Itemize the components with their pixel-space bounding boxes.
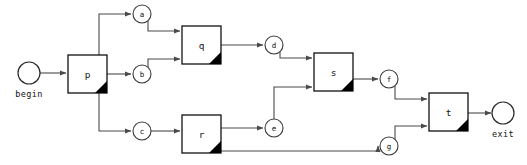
- node-c[interactable]: c: [133, 122, 151, 140]
- begin-circle[interactable]: [18, 62, 40, 84]
- node-q[interactable]: q: [182, 26, 221, 64]
- e-label: e: [272, 124, 277, 133]
- node-d[interactable]: d: [265, 36, 283, 54]
- node-a[interactable]: a: [133, 5, 151, 23]
- diagram-svg: begin p q r s t: [0, 0, 527, 165]
- node-p[interactable]: p: [68, 55, 107, 93]
- q-label: q: [199, 40, 205, 51]
- edge-g-to-t: [395, 126, 427, 139]
- f-label: f: [387, 75, 392, 84]
- node-exit[interactable]: exit: [492, 102, 514, 139]
- edge-p-to-a: [99, 14, 131, 55]
- edge-p-to-c: [99, 93, 131, 131]
- t-label: t: [446, 107, 452, 118]
- edge-r-to-g: [221, 146, 378, 151]
- node-r[interactable]: r: [182, 115, 221, 153]
- p-label: p: [85, 69, 91, 80]
- edge-b-to-q: [148, 59, 180, 67]
- edge-f-to-t: [395, 86, 427, 99]
- node-begin[interactable]: begin: [15, 62, 43, 99]
- node-s[interactable]: s: [314, 53, 353, 91]
- d-label: d: [272, 41, 277, 50]
- b-label: b: [140, 70, 145, 79]
- edge-e-to-s: [274, 87, 312, 119]
- edge-a-to-q: [148, 21, 180, 31]
- exit-label: exit: [492, 129, 514, 139]
- s-label: s: [331, 67, 337, 78]
- node-g[interactable]: g: [380, 137, 398, 155]
- a-label: a: [140, 10, 145, 19]
- r-label: r: [199, 129, 205, 140]
- node-e[interactable]: e: [265, 119, 283, 137]
- node-t[interactable]: t: [429, 93, 468, 131]
- g-label: g: [387, 142, 392, 151]
- begin-label: begin: [15, 89, 43, 99]
- exit-circle[interactable]: [492, 102, 514, 124]
- flow-diagram-canvas: begin p q r s t: [0, 0, 527, 165]
- c-label: c: [140, 127, 145, 136]
- node-f[interactable]: f: [380, 70, 398, 88]
- edge-d-to-s: [280, 52, 312, 58]
- node-b[interactable]: b: [133, 65, 151, 83]
